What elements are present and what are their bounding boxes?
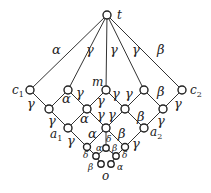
edge-label: γ <box>108 107 116 122</box>
node-s1 <box>84 144 91 151</box>
node-c1 <box>26 86 34 94</box>
edge-label: α <box>88 126 97 141</box>
edge-label: γ <box>76 85 84 100</box>
edge-label: γ <box>86 42 94 57</box>
edge-label: α <box>96 143 102 153</box>
edge-label: β <box>87 162 93 172</box>
edge-label: γ <box>97 107 105 122</box>
node-p1 <box>93 153 99 159</box>
edge-label: δ <box>83 150 88 160</box>
node-r3 <box>121 105 129 113</box>
edge-label: β <box>117 126 126 141</box>
edge-label: α <box>117 162 123 172</box>
edge-label: γ <box>48 113 56 128</box>
edge-label: α <box>52 42 61 57</box>
lattice-diagram: αγγγβγαγγγγβγγαγγβγγαδβγδαβδβα tc1mc2a1a… <box>0 0 211 193</box>
edge-label: β <box>111 143 117 153</box>
edge-label: γ <box>174 96 182 111</box>
node-c2 <box>178 86 186 94</box>
edge-t-c2 <box>107 15 182 90</box>
node-p2 <box>113 153 119 159</box>
edge-label: γ <box>132 42 140 57</box>
node-label-o: o <box>102 169 109 183</box>
node-a1 <box>64 124 72 132</box>
edge-label: γ <box>125 86 133 101</box>
node-a2 <box>140 124 148 132</box>
edge-label: γ <box>67 133 75 148</box>
node-label-m: m <box>92 75 103 89</box>
node-r4 <box>159 105 167 113</box>
edge-label: γ <box>112 86 120 101</box>
node-s2 <box>103 145 109 151</box>
node-s3 <box>122 144 129 151</box>
node-u2 <box>64 86 72 94</box>
node-u4 <box>140 86 148 94</box>
node-r2 <box>83 105 91 113</box>
node-r1 <box>45 105 53 113</box>
edge-label: γ <box>97 93 105 108</box>
node-label-t: t <box>117 8 122 22</box>
node-b1 <box>98 161 104 167</box>
edge-label: β <box>156 84 165 99</box>
node-q <box>102 124 110 132</box>
node-label-c1: c1 <box>12 83 24 99</box>
edge-label: β <box>136 109 145 124</box>
node-t <box>103 11 111 19</box>
node-b2 <box>108 161 114 167</box>
edge-label: γ <box>132 136 140 151</box>
edge-label: γ <box>110 42 118 57</box>
edge-label: δ <box>122 150 127 160</box>
edge-label: γ <box>157 113 165 128</box>
edge-label: δ <box>106 134 111 144</box>
edge-t-m <box>106 15 107 90</box>
node-label-c2: c2 <box>190 83 202 99</box>
edge-label: γ <box>27 96 35 111</box>
edge-label: β <box>156 42 165 57</box>
node-label-a1: a1 <box>50 127 62 143</box>
